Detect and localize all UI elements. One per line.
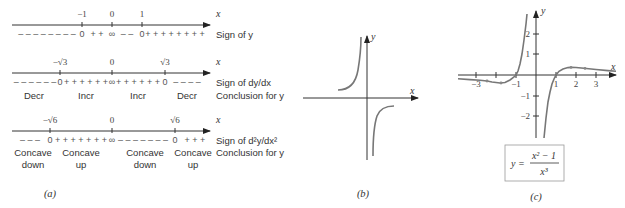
conclusion: down: [22, 159, 45, 170]
marked-point: [500, 82, 503, 85]
formula-numerator: x² − 1: [531, 150, 556, 161]
curve-branch-right: [373, 106, 394, 156]
conclusion-label: Conclusion for y: [216, 90, 284, 101]
tick-label: √6: [170, 115, 180, 125]
caption-b: (b): [357, 188, 370, 200]
conclusion: Concave: [62, 147, 100, 158]
panel-c: y x −3 −1 1 2 3 2 1 −1 −2 y = x² − 1: [458, 5, 616, 203]
caption-a: (a): [44, 188, 57, 200]
row-label-text: Sign of dy/dx: [216, 77, 271, 88]
tick-label: √3: [160, 57, 170, 67]
tick-label: 1: [140, 9, 145, 19]
axis-label-x: x: [215, 8, 221, 19]
x-tick-label: 2: [574, 79, 579, 89]
y-tick-label: 2: [526, 29, 531, 39]
sign-zero: 0: [162, 77, 167, 87]
panel-b: y x (b): [303, 31, 418, 200]
conclusion: Decr: [177, 90, 197, 101]
sign-chart-d2ydx2: −√6 0 √6 x – – – 0 + + + + + + + ∞ – – –…: [12, 114, 284, 170]
conclusion: Decr: [24, 90, 44, 101]
axis-label-y: y: [370, 31, 376, 42]
sign-segment: – – – –: [173, 77, 201, 87]
row-label: Sign of d²y/dx²: [216, 135, 277, 146]
conclusion-label: Conclusion for y: [216, 147, 284, 158]
sign-zero: 0: [79, 29, 84, 39]
tick-label: −1: [77, 9, 87, 19]
sign-segment: – – –: [20, 135, 40, 145]
marked-point: [570, 66, 573, 69]
y-tick-label: −2: [520, 111, 530, 121]
tick-label: −√3: [53, 57, 68, 67]
sign-infinity: ∞: [109, 135, 115, 145]
conclusion: Concave: [174, 147, 212, 158]
sign-infinity: ∞: [109, 77, 115, 87]
sign-segment: – –: [121, 29, 134, 39]
formula-lhs: y =: [510, 158, 525, 169]
sign-zero: 0: [139, 29, 144, 39]
sign-zero: 0: [57, 77, 62, 87]
conclusion: up: [188, 159, 199, 170]
x-tick-label: 1: [554, 79, 559, 89]
sign-segment: + +: [90, 29, 103, 39]
tick-label: 0: [110, 57, 115, 67]
sign-chart-dydx: −√3 0 √3 x – – – – – – 0 + + + + + + ∞ +…: [12, 56, 284, 101]
tick-label: −√6: [43, 115, 58, 125]
sign-segment: – – – – – – – –: [18, 29, 76, 39]
axis-label-y: y: [540, 5, 546, 16]
curve-branch-right: [544, 67, 616, 138]
x-tick-label: −1: [511, 79, 521, 89]
sign-segment: + + +: [185, 135, 206, 145]
tick-label: 0: [110, 115, 115, 125]
sign-segment: – – – – – –: [14, 77, 57, 87]
row-label: Sign of dy/dx: [216, 77, 271, 88]
sign-segment: + + + + + + + +: [145, 29, 205, 39]
sign-segment: + + + + + +: [116, 77, 160, 87]
row-label: Sign of y: [216, 29, 253, 40]
sign-segment: + + + + + +: [64, 77, 108, 87]
conclusion: up: [76, 159, 87, 170]
sign-segment: + + + + + + +: [55, 135, 107, 145]
y-tick-label: −1: [520, 91, 530, 101]
conclusion: down: [134, 159, 157, 170]
marked-point: [486, 80, 489, 83]
sign-chart-y: −1 0 1 x – – – – – – – – 0 + + ∞ – – 0 +…: [12, 8, 253, 40]
axis-label-x: x: [215, 56, 221, 67]
x-tick-label: 3: [594, 79, 599, 89]
conclusion: Incr: [78, 90, 94, 101]
tick-label: 0: [110, 9, 115, 19]
sign-segment: – – – – – – –: [118, 135, 168, 145]
marked-point: [584, 67, 587, 70]
figure: −1 0 1 x – – – – – – – – 0 + + ∞ – – 0 +…: [0, 0, 625, 208]
sign-zero: 0: [172, 135, 177, 145]
caption-c: (c): [530, 191, 542, 203]
conclusion: Concave: [126, 147, 164, 158]
sign-infinity: ∞: [109, 29, 115, 39]
panel-a: −1 0 1 x – – – – – – – – 0 + + ∞ – – 0 +…: [12, 8, 284, 200]
axis-label-x: x: [409, 85, 415, 96]
axis-label-x: x: [215, 114, 221, 125]
conclusion: Concave: [14, 147, 52, 158]
curve-branch-left: [338, 37, 361, 90]
curve-branch-left: [458, 14, 527, 83]
y-tick-label: 1: [526, 49, 531, 59]
sign-zero: 0: [47, 135, 52, 145]
conclusion: Incr: [130, 90, 146, 101]
formula-denominator: x³: [539, 166, 548, 177]
